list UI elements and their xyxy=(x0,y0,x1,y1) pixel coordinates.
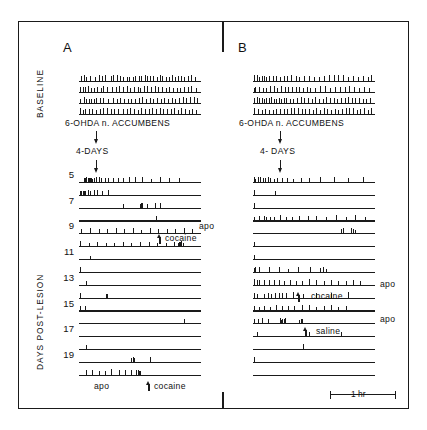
event-tick xyxy=(270,217,271,221)
event-tick xyxy=(369,88,370,92)
event-tick xyxy=(145,109,146,114)
event-tick xyxy=(259,280,260,285)
event-tick xyxy=(102,191,103,195)
event-tick xyxy=(91,99,92,103)
event-tick xyxy=(353,108,354,114)
panel-letter-b: B xyxy=(238,40,247,55)
record-ticks xyxy=(253,200,375,208)
event-tick xyxy=(264,99,265,103)
event-tick xyxy=(302,109,303,115)
event-tick xyxy=(263,88,264,92)
event-tick xyxy=(166,243,167,247)
event-tick xyxy=(275,293,276,298)
record-row xyxy=(253,238,375,247)
event-tick xyxy=(186,98,187,103)
event-tick xyxy=(150,228,151,233)
event-tick xyxy=(147,76,148,81)
event-tick xyxy=(85,87,86,92)
event-tick xyxy=(183,97,184,103)
event-tick xyxy=(141,76,142,81)
event-tick xyxy=(90,256,91,260)
event-tick xyxy=(337,99,338,103)
event-tick xyxy=(342,109,343,114)
event-tick xyxy=(89,243,90,247)
event-tick xyxy=(308,98,309,103)
event-tick xyxy=(286,217,287,221)
event-tick xyxy=(150,98,151,103)
event-tick xyxy=(262,110,263,114)
event-tick xyxy=(293,179,294,182)
event-tick xyxy=(123,242,124,246)
day-label: 9 xyxy=(58,220,74,231)
record-ticks xyxy=(79,174,201,182)
record-row xyxy=(253,73,375,82)
event-tick xyxy=(287,76,288,81)
event-tick xyxy=(338,281,339,285)
event-tick xyxy=(116,87,117,93)
event-tick xyxy=(270,86,271,92)
record-row xyxy=(79,95,201,104)
event-tick xyxy=(254,279,255,284)
record-ticks xyxy=(79,303,201,311)
event-tick xyxy=(97,190,98,195)
event-tick xyxy=(124,229,125,234)
event-tick xyxy=(124,99,125,104)
event-tick xyxy=(188,76,189,81)
event-tick xyxy=(309,76,310,81)
event-tick xyxy=(140,242,141,247)
record-row xyxy=(79,315,201,324)
record-row xyxy=(253,95,375,104)
event-tick xyxy=(259,87,260,92)
event-tick xyxy=(268,319,269,323)
event-tick xyxy=(284,76,285,81)
event-tick xyxy=(292,87,293,92)
event-tick xyxy=(131,243,132,247)
event-tick xyxy=(254,255,255,259)
event-tick xyxy=(153,99,154,103)
record-ticks xyxy=(253,315,375,323)
event-tick xyxy=(146,99,147,103)
event-tick xyxy=(157,243,158,247)
day-label: 19 xyxy=(58,349,74,360)
event-tick xyxy=(352,98,353,103)
event-tick xyxy=(359,88,360,92)
event-tick xyxy=(341,98,342,103)
event-tick xyxy=(330,88,331,92)
event-tick xyxy=(357,110,358,114)
event-tick xyxy=(168,99,169,103)
event-tick xyxy=(320,110,321,115)
record-row xyxy=(79,303,201,312)
record-row xyxy=(253,187,375,196)
axis-label-post-lesion: DAYS POST-LESION xyxy=(35,274,45,370)
event-tick xyxy=(101,178,102,182)
event-tick xyxy=(257,332,258,336)
event-tick xyxy=(302,319,303,323)
event-tick xyxy=(92,370,93,374)
event-tick xyxy=(334,75,335,81)
event-tick xyxy=(336,215,337,220)
event-tick xyxy=(103,108,104,114)
event-tick xyxy=(331,110,332,114)
panel-b-interval-label: 4- DAYS xyxy=(260,146,295,156)
event-tick xyxy=(320,86,321,92)
event-tick xyxy=(99,371,100,375)
event-tick xyxy=(160,108,161,114)
event-tick xyxy=(128,99,129,103)
day-label: 15 xyxy=(58,298,74,309)
event-tick xyxy=(262,98,263,103)
event-tick xyxy=(133,77,134,81)
event-tick xyxy=(99,75,100,81)
event-tick xyxy=(276,305,277,310)
event-tick xyxy=(88,86,89,92)
event-tick xyxy=(304,76,305,82)
event-tick xyxy=(169,178,170,182)
event-tick xyxy=(254,98,255,103)
day-label: 13 xyxy=(58,272,74,283)
event-tick xyxy=(150,357,151,362)
event-tick xyxy=(120,76,121,81)
event-tick xyxy=(348,97,349,103)
event-tick xyxy=(85,306,86,311)
event-tick xyxy=(133,228,134,233)
event-tick xyxy=(158,229,159,233)
event-tick xyxy=(181,76,182,81)
